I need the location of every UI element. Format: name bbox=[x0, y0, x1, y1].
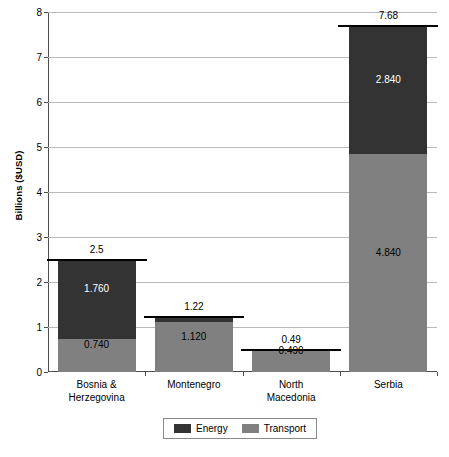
x-axis-label-3: NorthMacedonia bbox=[243, 379, 340, 404]
x-axis-label-4: Serbia bbox=[340, 379, 437, 392]
bar-1[interactable]: 0.7401.760 bbox=[58, 260, 136, 373]
transport-swatch bbox=[242, 424, 259, 433]
y-tick-mark bbox=[44, 192, 48, 193]
bar-label-transport: 0.740 bbox=[58, 339, 136, 350]
y-tick-mark bbox=[44, 12, 48, 13]
x-axis-label-line: North bbox=[243, 379, 340, 392]
total-cap-line bbox=[241, 349, 341, 351]
energy-swatch bbox=[174, 424, 191, 433]
x-axis-label-line: Herzegovina bbox=[48, 392, 145, 405]
y-tick-mark bbox=[44, 372, 48, 373]
y-tick-mark bbox=[44, 57, 48, 58]
legend-item-transport[interactable]: Transport bbox=[242, 423, 306, 434]
y-tick-mark bbox=[44, 147, 48, 148]
bar-segment-energy[interactable] bbox=[58, 260, 136, 339]
legend-label-energy: Energy bbox=[196, 423, 228, 434]
y-tick-mark bbox=[44, 327, 48, 328]
y-tick-mark bbox=[44, 237, 48, 238]
x-tick-mark bbox=[437, 372, 438, 376]
legend-item-energy[interactable]: Energy bbox=[174, 423, 228, 434]
bar-label-transport: 4.840 bbox=[349, 247, 427, 258]
total-cap-line bbox=[47, 259, 147, 261]
bar-label-energy: 1.760 bbox=[58, 283, 136, 294]
bar-segment-energy[interactable] bbox=[349, 26, 427, 154]
y-tick-label: 6 bbox=[36, 97, 42, 108]
y-tick-mark bbox=[44, 102, 48, 103]
bar-segment-transport[interactable] bbox=[349, 154, 427, 372]
x-axis-label-2: Montenegro bbox=[145, 379, 242, 392]
y-tick-label: 3 bbox=[36, 232, 42, 243]
chart-legend: Energy Transport bbox=[163, 418, 317, 439]
bar-label-energy: 2.840 bbox=[349, 74, 427, 85]
bar-3[interactable]: 0.490 bbox=[252, 350, 330, 372]
y-tick-label: 2 bbox=[36, 277, 42, 288]
y-tick-mark bbox=[44, 282, 48, 283]
bar-label-transport: 1.120 bbox=[155, 330, 233, 341]
bar-total-label: 1.22 bbox=[144, 301, 244, 312]
x-tick-mark bbox=[243, 372, 244, 376]
plot-area: 012345678 0.7401.7602.51.1201.220.4900.4… bbox=[48, 12, 437, 372]
total-cap-line bbox=[338, 25, 438, 27]
x-axis-label-line: Serbia bbox=[340, 379, 437, 392]
x-axis-label-line: Macedonia bbox=[243, 392, 340, 405]
x-axis-label-1: Bosnia &Herzegovina bbox=[48, 379, 145, 404]
bar-4[interactable]: 4.8402.840 bbox=[349, 26, 427, 372]
x-axis-label-line: Bosnia & bbox=[48, 379, 145, 392]
y-tick-label: 1 bbox=[36, 322, 42, 333]
bar-total-label: 0.49 bbox=[241, 334, 341, 345]
bar-total-label: 7.68 bbox=[338, 10, 438, 21]
x-tick-mark bbox=[145, 372, 146, 376]
x-axis-label-line: Montenegro bbox=[145, 379, 242, 392]
y-tick-label: 7 bbox=[36, 52, 42, 63]
y-tick-label: 4 bbox=[36, 187, 42, 198]
stacked-bar-chart: Billions ($USD) 012345678 0.7401.7602.51… bbox=[0, 0, 449, 457]
legend-label-transport: Transport bbox=[264, 423, 306, 434]
total-cap-line bbox=[144, 316, 244, 318]
y-tick-label: 5 bbox=[36, 142, 42, 153]
y-tick-label: 0 bbox=[36, 367, 42, 378]
bar-2[interactable]: 1.120 bbox=[155, 317, 233, 372]
x-tick-mark bbox=[340, 372, 341, 376]
y-axis-title: Billions ($USD) bbox=[13, 116, 24, 256]
y-tick-label: 8 bbox=[36, 7, 42, 18]
bar-segment-transport[interactable] bbox=[155, 322, 233, 372]
bar-total-label: 2.5 bbox=[47, 244, 147, 255]
